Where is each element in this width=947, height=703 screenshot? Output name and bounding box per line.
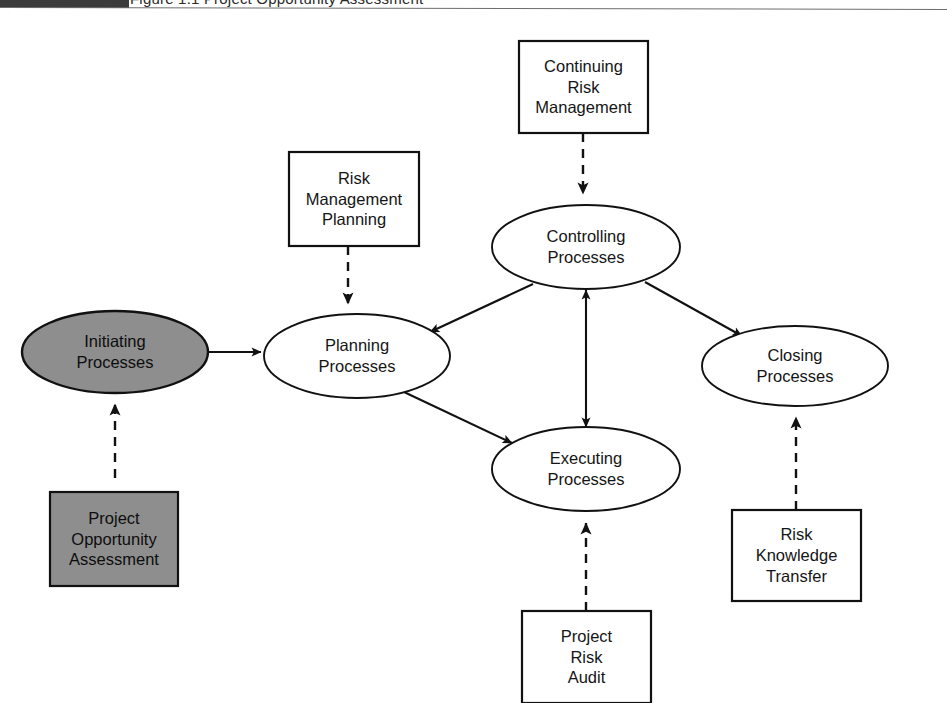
node-controlling-processes[interactable] (492, 205, 680, 289)
node-risk-management-planning[interactable] (289, 152, 419, 246)
connector-planning-to-executing (404, 392, 512, 443)
node-executing-processes[interactable] (492, 427, 680, 511)
diagram-canvas: Initiating Processes Planning Processes … (0, 14, 947, 703)
node-closing-processes[interactable] (702, 326, 888, 406)
node-continuing-risk-management[interactable] (519, 41, 648, 133)
node-initiating-processes[interactable] (22, 311, 208, 393)
node-risk-knowledge-transfer[interactable] (732, 510, 861, 601)
connector-controlling-to-planning (430, 284, 533, 332)
page-root: Figure 1.1 Project Opportunity Assessmen… (0, 0, 947, 703)
node-project-risk-audit[interactable] (522, 611, 651, 703)
node-project-opportunity-assessment[interactable] (50, 492, 178, 586)
connector-controlling-to-closing (645, 282, 742, 336)
diagram-svg (0, 14, 947, 703)
node-planning-processes[interactable] (264, 314, 450, 398)
